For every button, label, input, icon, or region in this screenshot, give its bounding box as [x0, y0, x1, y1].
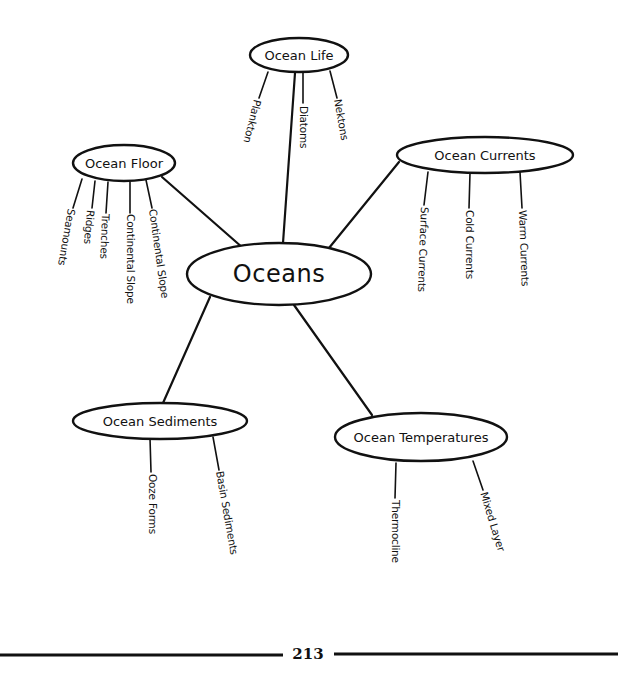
leaf-label-basin-sediments: Basin Sediments [214, 470, 241, 555]
leaf-label-cold-currents: Cold Currents [464, 210, 476, 279]
leaf-link-continental-slope [146, 180, 152, 208]
leaf-link-ooze-forms [150, 438, 151, 472]
leaf-link-ridges [92, 181, 95, 208]
leaf-link-surface-currents [424, 172, 428, 205]
node-ocean-sediments: Ocean Sediments [73, 403, 247, 439]
page-footer: 213 [0, 645, 618, 663]
leaf-link-thermocline [395, 463, 396, 498]
node-ocean-currents: Ocean Currents [397, 137, 573, 173]
leaf-link-plankton [259, 72, 268, 98]
leaf-label-continental-slope: Continental Slope [147, 208, 171, 299]
leaf-label-thermocline: Thermocline [390, 499, 402, 563]
leaf-label-nektons: Nektons [332, 98, 351, 141]
node-label-ocean-life: Ocean Life [264, 48, 333, 63]
root-node: Oceans [187, 243, 371, 305]
leaf-link-cold-currents [469, 173, 470, 208]
link-ocean-temperatures [294, 305, 372, 415]
leaf-label-seamounts: Seamounts [56, 208, 78, 267]
node-label-ocean-temperatures: Ocean Temperatures [354, 430, 489, 445]
link-ocean-sediments [163, 297, 210, 403]
page-number: 213 [292, 645, 323, 663]
root-label: Oceans [233, 260, 325, 288]
link-ocean-currents [329, 162, 399, 248]
leaf-label-ridges: Ridges [82, 209, 97, 244]
link-ocean-floor [162, 177, 243, 248]
leaf-label-surface-currents: Surface Currents [416, 207, 431, 292]
leaf-label-ooze-forms: Ooze Forms [147, 474, 159, 534]
leaf-link-warm-currents [520, 172, 522, 208]
leaf-link-basin-sediments [213, 437, 219, 470]
leaf-label-mixed-layer: Mixed Layer [478, 490, 508, 553]
leaf-label-trenches: Trenches [98, 213, 112, 259]
node-ocean-floor: Ocean Floor [73, 145, 175, 181]
leaf-label-diatoms: Diatoms [298, 106, 310, 148]
leaf-link-mixed-layer [473, 461, 483, 490]
leaf-link-nektons [330, 71, 337, 98]
leaf-link-seamounts [73, 179, 82, 208]
mind-map-canvas: Ocean LifeOcean FloorOcean CurrentsOcean… [0, 0, 618, 686]
node-ocean-life: Ocean Life [250, 38, 348, 72]
leaf-label-plankton: Plankton [242, 99, 264, 145]
node-label-ocean-floor: Ocean Floor [85, 156, 164, 171]
node-label-ocean-sediments: Ocean Sediments [103, 414, 218, 429]
node-label-ocean-currents: Ocean Currents [434, 148, 536, 163]
leaf-label-continental-slope: Continental Slope [125, 214, 137, 304]
node-ocean-temperatures: Ocean Temperatures [335, 413, 507, 461]
link-ocean-life [283, 73, 295, 243]
leaf-link-trenches [106, 182, 108, 213]
leaf-label-warm-currents: Warm Currents [517, 210, 532, 287]
